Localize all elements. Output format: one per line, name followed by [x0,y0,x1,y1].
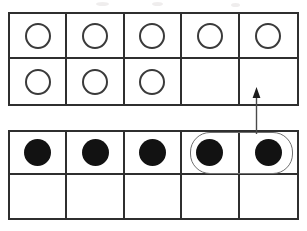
scan-smudge [152,2,163,6]
bottom-frame-cell-r1c2[interactable] [67,132,124,175]
open-counter-icon [25,23,51,49]
filled-counter-icon [82,139,109,166]
bottom-ten-frame [8,130,299,220]
empty-slot [25,184,51,210]
arrow-head [253,87,261,98]
open-counter-icon [82,23,108,49]
open-counter-icon [25,69,51,95]
top-frame-cell-r1c2[interactable] [67,14,124,59]
bottom-frame-cell-r1c4[interactable] [182,132,239,175]
top-frame-cell-r2c1[interactable] [10,59,67,104]
top-frame-cell-r2c4[interactable] [182,59,239,104]
move-arrow-icon [248,86,266,134]
bottom-frame-cell-r2c3[interactable] [125,175,182,218]
top-frame-cell-r1c3[interactable] [125,14,182,59]
filled-counter-icon [139,139,166,166]
empty-slot [255,184,281,210]
top-frame-cell-r1c4[interactable] [182,14,239,59]
bottom-frame-cell-r1c5[interactable] [240,132,297,175]
bottom-frame-cell-r2c5[interactable] [240,175,297,218]
top-frame-cell-r1c5[interactable] [240,14,297,59]
bottom-frame-cell-r1c3[interactable] [125,132,182,175]
filled-counter-icon [24,139,51,166]
empty-slot [139,184,165,210]
open-counter-icon [139,23,165,49]
scan-smudge [96,2,109,6]
bottom-frame-cell-r2c1[interactable] [10,175,67,218]
bottom-frame-cell-r2c4[interactable] [182,175,239,218]
open-counter-icon [139,69,165,95]
open-counter-icon [255,23,281,49]
open-counter-icon [82,69,108,95]
open-counter-icon [197,23,223,49]
diagram-canvas [0,0,307,231]
top-frame-cell-r2c2[interactable] [67,59,124,104]
empty-slot [82,184,108,210]
filled-counter-icon [196,139,223,166]
filled-counter-icon [255,139,282,166]
top-frame-cell-r2c3[interactable] [125,59,182,104]
scan-smudge [231,3,240,7]
empty-slot [197,69,223,95]
bottom-frame-cell-r2c2[interactable] [67,175,124,218]
top-frame-cell-r1c1[interactable] [10,14,67,59]
bottom-frame-cell-r1c1[interactable] [10,132,67,175]
empty-slot [197,184,223,210]
